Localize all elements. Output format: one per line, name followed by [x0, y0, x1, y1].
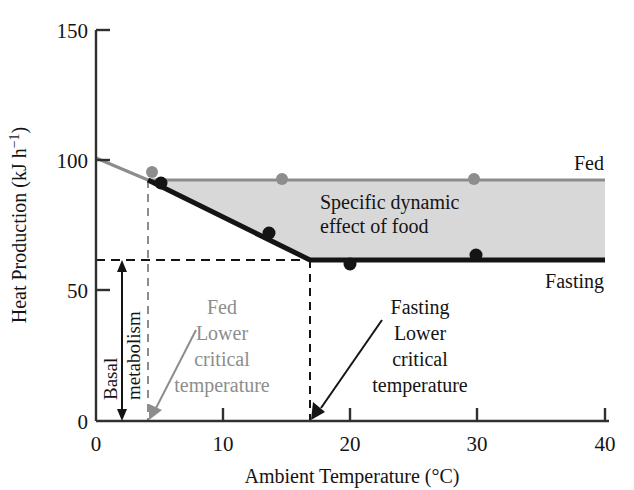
y-tick-label-0: 0 [78, 410, 89, 434]
y-axis-title-main: Heat Production (kJ h [8, 148, 31, 323]
basal-metabolism-label-line2: metabolism [123, 311, 144, 400]
fed-data-point [146, 166, 158, 178]
x-tick-label-40: 40 [595, 432, 616, 456]
fasting-lct-label-line2: Lower [394, 322, 447, 344]
x-tick-label-10: 10 [213, 432, 234, 456]
y-tick-label-150: 150 [57, 19, 89, 43]
basal-metabolism-label-line1-group: Basal [100, 358, 121, 400]
fasting-data-point [470, 249, 483, 262]
fed-series-label: Fed [574, 152, 604, 174]
fed-data-point [276, 173, 288, 185]
fasting-lct-label-line4: temperature [372, 374, 468, 397]
basal-metabolism-label-line2-group: metabolism [123, 311, 144, 400]
y-tick-label-50: 50 [67, 279, 88, 303]
y-axis-title-group: Heat Production (kJ h−1) [7, 127, 31, 324]
fasting-data-point [344, 258, 357, 271]
fed-lct-label-line4: temperature [174, 374, 270, 397]
fasting-lct-label-line1: Fasting [391, 296, 450, 319]
fasting-lct-label-line3: critical [392, 348, 448, 370]
fed-lct-label-line1: Fed [207, 296, 237, 318]
heat-production-vs-ambient-temperature-chart: 150 100 50 0 0 10 20 30 40 Ambient Tempe… [0, 0, 634, 490]
x-tick-label-20: 20 [340, 432, 361, 456]
fed-lct-label-line2: Lower [196, 322, 249, 344]
fasting-series-label: Fasting [545, 270, 604, 293]
fasting-data-point [155, 177, 168, 190]
y-axis-title: Heat Production (kJ h−1) [7, 127, 31, 324]
fed-lct-label-line3: critical [194, 348, 250, 370]
fed-data-point [468, 173, 480, 185]
shaded-region-label-line2: effect of food [320, 215, 428, 237]
y-axis-title-superscript: −1 [7, 133, 22, 148]
x-tick-label-30: 30 [467, 432, 488, 456]
chart-figure: 150 100 50 0 0 10 20 30 40 Ambient Tempe… [0, 0, 634, 490]
y-tick-label-100: 100 [57, 149, 89, 173]
fasting-data-point [263, 227, 276, 240]
x-tick-label-0: 0 [91, 432, 102, 456]
x-axis-title: Ambient Temperature (°C) [244, 465, 459, 488]
basal-metabolism-label-line1: Basal [100, 358, 121, 400]
y-axis-title-end: ) [8, 127, 31, 134]
shaded-region-label-line1: Specific dynamic [320, 191, 460, 214]
